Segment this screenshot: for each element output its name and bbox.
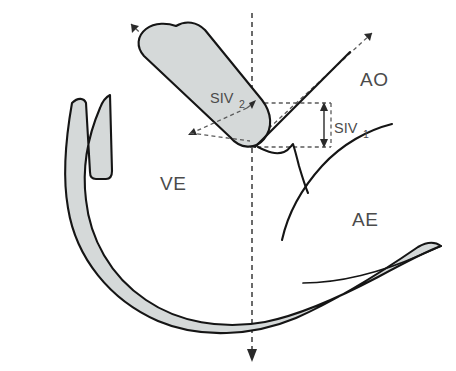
siv1-label-subscript: 1 [363, 128, 369, 140]
siv1-label-base: SIV [334, 120, 358, 136]
label-ve: VE [160, 173, 187, 194]
aortic-valve-cusp [258, 144, 308, 193]
label-ao: AO [360, 69, 389, 90]
vertical-axis-arrowhead-icon [247, 349, 257, 362]
label-ae: AE [352, 209, 379, 230]
siv2-label-subscript: 2 [239, 98, 245, 110]
siv1-arrowhead-up-icon [320, 102, 328, 111]
vertical-reference-axis-guide [247, 13, 257, 362]
diagram-root: AO VE AE SIV 2 SIV 1 [0, 0, 456, 371]
siv1-arrowhead-down-icon [320, 139, 328, 148]
siv1-dimension-arrow [320, 102, 328, 148]
siv2-label-base: SIV [210, 90, 234, 106]
anatomical-diagram-figure: AO VE AE SIV 2 SIV 1 [0, 0, 456, 371]
septum-axis-arrowhead-icon [131, 24, 139, 33]
measurement-label-siv1: SIV 1 [334, 120, 369, 140]
interventricular-septum-band [139, 23, 271, 147]
